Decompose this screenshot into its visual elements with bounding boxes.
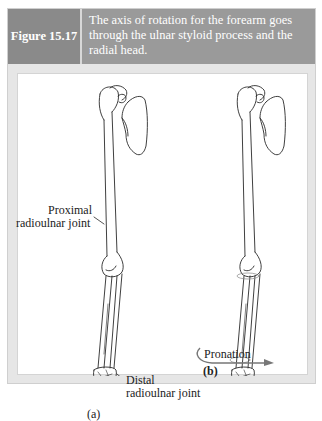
arm-a-bones bbox=[93, 86, 147, 376]
panel-a-label: (a) bbox=[87, 408, 100, 421]
figure-header: Figure 15.17 The axis of rotation for th… bbox=[8, 9, 315, 64]
figure-frame: Figure 15.17 The axis of rotation for th… bbox=[7, 8, 316, 384]
proximal-label-line2: radioulnar joint bbox=[16, 217, 90, 230]
panel-b-label: (b) bbox=[203, 365, 218, 378]
distal-pointer bbox=[117, 374, 124, 376]
figure-caption: The axis of rotation for the forearm goe… bbox=[82, 9, 315, 64]
distal-label-line2: radioulnar joint bbox=[126, 387, 200, 400]
proximal-pointer bbox=[94, 217, 104, 224]
pronation-label: Pronation bbox=[204, 348, 251, 361]
arm-b-bones bbox=[230, 86, 285, 376]
illustration-panel: Proximal radioulnar joint Distal radioul… bbox=[17, 73, 308, 375]
figure-number: Figure 15.17 bbox=[8, 9, 82, 64]
